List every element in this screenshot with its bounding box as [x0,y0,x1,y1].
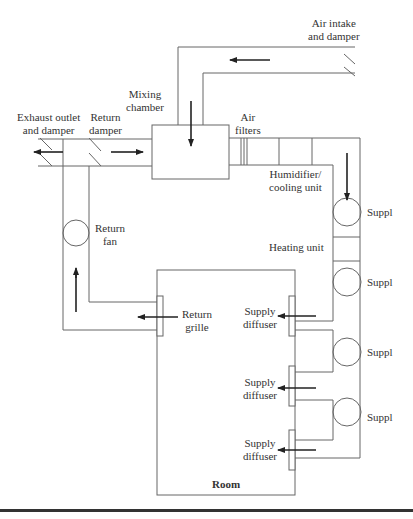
supply-fan-1 [333,198,361,226]
label-air-filters: Air filters [235,111,261,137]
return-grille [157,296,163,336]
label-supply-diffuser-1: Supply diffuser [243,305,277,331]
label-return-fan: Return fan [95,222,125,248]
label-room: Room [212,478,240,491]
label-supply-fan-2: Suppl [367,276,393,289]
supply-fan-4 [333,398,361,426]
supply-fan-3 [333,338,361,366]
label-supply-fan-1: Suppl [367,206,393,219]
label-return-grille: Return grille [182,308,212,334]
bottom-rule [0,509,413,512]
label-return-damper: Return damper [89,111,122,137]
air-intake-duct [178,47,355,125]
label-supply-diffuser-2: Supply diffuser [243,376,277,402]
label-air-intake: Air intake and damper [308,17,360,43]
label-supply-fan-3: Suppl [367,346,393,359]
label-humidifier: Humidifier/ cooling unit [269,168,322,194]
label-mixing-chamber: Mixing chamber [126,88,164,114]
supply-fan-2 [333,268,361,296]
label-heating: Heating unit [269,241,324,254]
hvac-diagram [0,0,413,519]
return-fan [63,220,89,246]
label-exhaust: Exhaust outlet and damper [17,111,80,137]
supply-diffuser-2 [289,366,295,406]
label-supply-diffuser-3: Supply diffuser [243,437,277,463]
label-supply-fan-4: Suppl [367,411,393,424]
